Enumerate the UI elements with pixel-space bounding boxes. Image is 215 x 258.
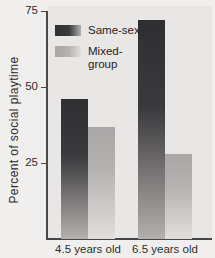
legend-item-same-sex: Same-sex	[55, 24, 155, 37]
y-tick-label-75: 75	[18, 4, 38, 16]
y-tick-mark-25	[41, 163, 47, 165]
y-tick-mark-50	[41, 87, 47, 89]
bar-mixed-group-6.5-years-old	[165, 154, 192, 239]
x-category-label-2: 6.5 years old	[125, 243, 205, 255]
legend-swatch-1	[55, 25, 81, 36]
legend: Same-sexMixed-group	[55, 24, 155, 79]
legend-label-1: Same-sex	[88, 24, 140, 37]
bar-same-sex-4.5-years-old	[61, 99, 88, 239]
y-tick-mark-75	[41, 11, 47, 13]
y-tick-label-25: 25	[18, 156, 38, 168]
legend-label-2: Mixed-group	[88, 45, 140, 71]
y-axis-line	[46, 11, 48, 239]
bar-chart-figure: Percent of social playtime 255075 4.5 ye…	[0, 0, 215, 258]
y-axis-label: Percent of social playtime	[7, 15, 21, 245]
bar-mixed-group-4.5-years-old	[88, 127, 115, 239]
x-category-label-1: 4.5 years old	[48, 243, 128, 255]
legend-swatch-2	[55, 46, 81, 57]
y-tick-label-50: 50	[18, 80, 38, 92]
legend-item-mixed-group: Mixed-group	[55, 45, 155, 71]
